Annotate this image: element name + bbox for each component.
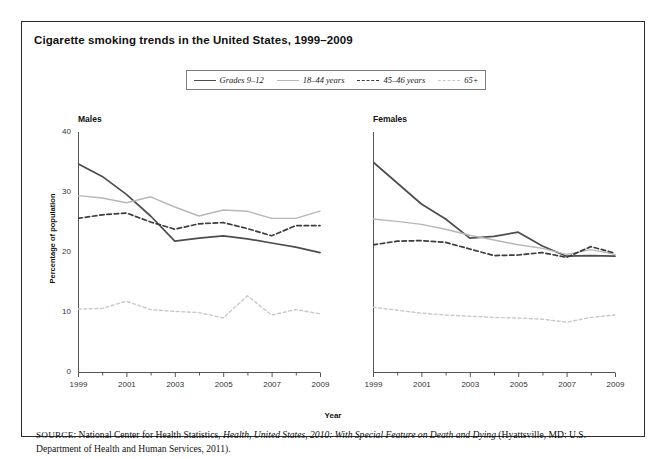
y-tick-label: 20 [55,247,71,256]
legend-swatch-solid-light-icon [277,80,299,81]
y-tick-label: 40 [55,127,71,136]
series-line [78,296,320,318]
x-tick-label: 2007 [552,380,582,389]
source-note: SOURCE: National Center for Health Stati… [36,428,630,455]
x-tick-label: 2007 [257,380,287,389]
legend-label: 45–46 years [383,75,425,85]
x-tick-label: 2003 [455,380,485,389]
y-tick-label: 0 [55,367,71,376]
x-tick-label: 2001 [112,380,142,389]
legend-item-18-44-years: 18–44 years [277,75,345,85]
x-axis-label: Year [22,411,644,420]
source-prefix: SOURCE [36,430,73,440]
legend-swatch-dashed-light-icon [438,80,460,81]
panel-title-males: Males [78,114,102,124]
source-text-before: : National Center for Health Statistics, [73,429,222,440]
legend-label: 65+ [464,75,478,85]
series-line [373,162,615,256]
y-axis-label: Percentage of population [48,193,57,283]
chart-panel-males: Males Percentage of population 010203040… [54,114,344,399]
chart-legend: Grades 9–12 18–44 years 45–46 years 65+ [186,70,486,90]
x-tick-label: 2009 [601,380,631,389]
series-line [78,164,320,253]
legend-swatch-dashed-dark-icon [357,80,379,81]
x-tick-label: 2005 [504,380,534,389]
series-line [373,241,615,258]
figure-panel: Cigarette smoking trends in the United S… [21,21,645,437]
legend-item-45-46-years: 45–46 years [357,75,425,85]
chart-svg-females [373,132,617,398]
x-tick-label: 2003 [160,380,190,389]
panel-title-females: Females [373,114,407,124]
legend-label: Grades 9–12 [220,75,264,85]
x-tick-label: 1999 [359,380,389,389]
chart-panel-females: Females 199920012003200520072009 [349,114,639,399]
plot-area-females [373,132,615,372]
plot-area-males [78,132,320,372]
x-tick-label: 2001 [407,380,437,389]
legend-item-65-plus: 65+ [438,75,478,85]
y-tick-label: 30 [55,187,71,196]
series-line [78,196,320,219]
legend-item-grades-9-12: Grades 9–12 [194,75,264,85]
source-italic-title: Health, United States, 2010: With Specia… [223,429,496,440]
x-tick-label: 2009 [306,380,336,389]
legend-label: 18–44 years [303,75,345,85]
legend-swatch-solid-dark-icon [194,80,216,81]
chart-svg-males [78,132,322,398]
x-tick-label: 1999 [64,380,94,389]
page-title: Cigarette smoking trends in the United S… [34,34,353,46]
series-line [373,307,615,322]
x-tick-label: 2005 [209,380,239,389]
y-tick-label: 10 [55,307,71,316]
